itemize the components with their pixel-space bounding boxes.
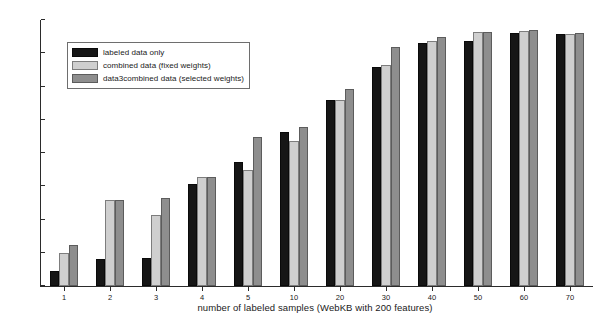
legend-label: data3combined data (selected weights) [103, 74, 244, 83]
x-axis-tick-label: 5 [233, 293, 263, 302]
x-axis-tick [156, 286, 157, 291]
x-axis-tick-label: 3 [141, 293, 171, 302]
bar [381, 65, 391, 286]
legend-swatch-icon [72, 48, 98, 57]
x-axis-tick-label: 40 [417, 293, 447, 302]
x-axis-tick [110, 286, 111, 291]
bar [289, 141, 299, 286]
y-axis-tick [41, 252, 45, 253]
x-axis-tick-label: 30 [371, 293, 401, 302]
bar [151, 215, 161, 286]
x-axis-tick-label: 1 [49, 293, 79, 302]
bar [197, 177, 207, 286]
x-axis-tick [478, 286, 479, 291]
y-axis-tick [41, 152, 45, 153]
legend-swatch-icon [72, 74, 98, 83]
bar [437, 37, 447, 286]
bar [473, 32, 483, 286]
bar [299, 127, 309, 286]
y-axis-tick [41, 119, 45, 120]
x-axis-tick [294, 286, 295, 291]
chart-legend: labeled data only combined data (fixed w… [67, 42, 250, 89]
bar [464, 41, 474, 286]
bar [69, 245, 79, 286]
bar [556, 34, 566, 286]
x-axis-tick-label: 10 [279, 293, 309, 302]
x-axis-tick [64, 286, 65, 291]
y-axis-tick [41, 86, 45, 87]
bar [418, 43, 428, 286]
y-axis-tick [41, 285, 45, 286]
x-axis-tick [570, 286, 571, 291]
bar [565, 34, 575, 286]
bar [234, 162, 244, 286]
legend-swatch-icon [72, 61, 98, 70]
x-axis-tick [248, 286, 249, 291]
x-axis-tick [386, 286, 387, 291]
bar [335, 100, 345, 286]
bar [253, 137, 263, 286]
x-axis-tick [432, 286, 433, 291]
bar [280, 132, 290, 286]
x-axis-tick [340, 286, 341, 291]
x-axis-tick-label: 50 [463, 293, 493, 302]
bar [59, 253, 69, 286]
bar [161, 198, 171, 286]
legend-item: data3combined data (selected weights) [72, 72, 244, 85]
legend-label: combined data (fixed weights) [103, 61, 211, 70]
bar [50, 271, 60, 286]
bar [142, 258, 152, 286]
bar [243, 170, 253, 286]
x-axis-tick-label: 2 [95, 293, 125, 302]
x-axis-tick-label: 4 [187, 293, 217, 302]
bar [207, 177, 217, 286]
y-axis-tick [41, 52, 45, 53]
bar [519, 31, 529, 286]
bar [372, 67, 382, 286]
x-axis-tick-label: 20 [325, 293, 355, 302]
bar-chart-figure: micro-averaged F1 measure number of labe… [0, 0, 602, 325]
bar [115, 200, 125, 286]
legend-item: combined data (fixed weights) [72, 59, 244, 72]
x-axis-tick-label: 70 [555, 293, 585, 302]
x-axis-tick [524, 286, 525, 291]
bar [326, 100, 336, 286]
legend-label: labeled data only [103, 48, 164, 57]
y-axis-tick [41, 19, 45, 20]
bar [105, 200, 115, 286]
bar [96, 259, 106, 286]
legend-item: labeled data only [72, 46, 244, 59]
y-axis-tick [41, 219, 45, 220]
bar [510, 33, 520, 286]
y-axis-tick [41, 185, 45, 186]
bar [188, 184, 198, 286]
bar [345, 89, 355, 287]
x-axis-tick [202, 286, 203, 291]
x-axis-tick-label: 60 [509, 293, 539, 302]
bar [427, 41, 437, 286]
bar [529, 30, 539, 286]
bar [391, 47, 401, 286]
bar [483, 32, 493, 286]
bar [575, 33, 585, 286]
x-axis-label: number of labeled samples (WebKB with 20… [35, 302, 595, 313]
